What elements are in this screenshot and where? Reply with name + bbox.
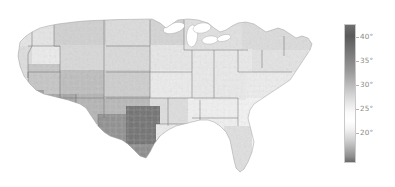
colorbar-tick-label-25: 25° xyxy=(360,105,373,112)
colorbar-tick-mark xyxy=(356,61,359,62)
us-county-choropleth xyxy=(2,6,332,176)
colorbar: 40°35°30°25°20° xyxy=(344,24,394,166)
choropleth-map-panel xyxy=(2,6,332,176)
colorbar-tick-label-40: 40° xyxy=(360,33,373,40)
colorbar-tick-label-30: 30° xyxy=(360,81,373,88)
colorbar-tick-mark xyxy=(356,85,359,86)
figure-canvas: 40°35°30°25°20° xyxy=(0,0,395,187)
colorbar-gradient xyxy=(344,24,356,163)
colorbar-tick-label-35: 35° xyxy=(360,57,373,64)
colorbar-tick-mark xyxy=(356,133,359,134)
colorbar-tick-mark xyxy=(356,109,359,110)
colorbar-tick-mark xyxy=(356,37,359,38)
colorbar-tick-label-20: 20° xyxy=(360,129,373,136)
